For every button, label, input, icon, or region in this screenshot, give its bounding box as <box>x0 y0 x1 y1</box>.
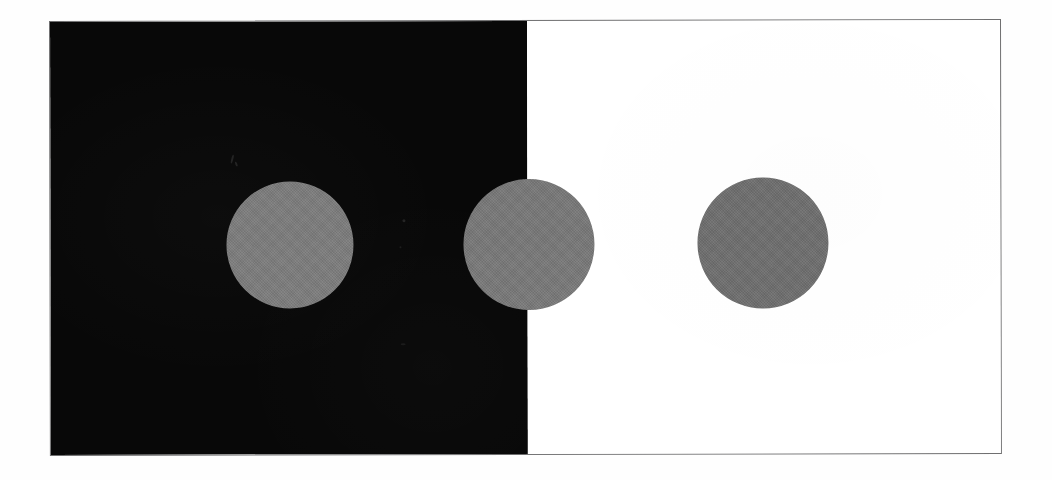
gray-disc-on-white <box>697 177 828 308</box>
figure-stage: Three identical gray discs: one on a bla… <box>0 0 1052 480</box>
gray-disc-on-black <box>226 181 353 308</box>
gray-disc-on-border <box>463 178 594 309</box>
illustration-plate <box>49 19 1002 456</box>
